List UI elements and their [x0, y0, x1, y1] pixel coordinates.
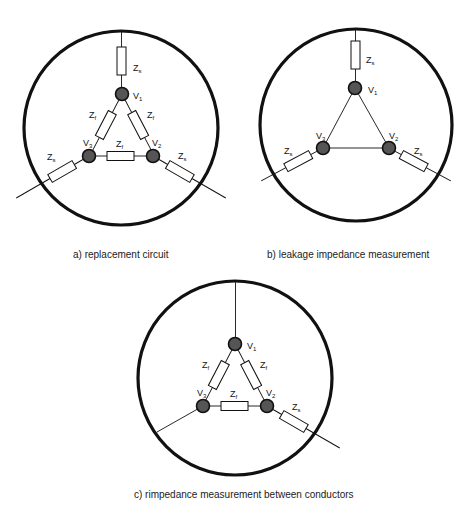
svg-text:V3: V3 [83, 138, 93, 149]
caption-c: c) rimpedance measurement between conduc… [134, 489, 354, 500]
svg-text:Zs: Zs [47, 152, 56, 163]
svg-text:Zs: Zs [414, 146, 423, 157]
svg-text:Zf: Zf [89, 110, 97, 121]
svg-text:V1: V1 [368, 85, 378, 96]
node-v3 [83, 150, 96, 163]
caption-a: a) replacement circuit [73, 249, 169, 260]
node-v2 [261, 400, 274, 413]
svg-text:Zf: Zf [116, 139, 124, 150]
panel-a-replacement-circuit: Zs Zs Zs Zf Zf Zf V1 [14, 31, 228, 225]
svg-text:Zs: Zs [366, 55, 375, 66]
svg-text:Zf: Zf [202, 360, 210, 371]
svg-text:V3: V3 [197, 388, 207, 399]
node-v2 [383, 142, 396, 155]
resistor-zf-v3-v2 [221, 402, 248, 411]
resistor-zs-right [279, 411, 308, 433]
panel-c-impedance-between-conductors: Zs Zf Zf Zf V1 V2 V3 [138, 281, 342, 475]
node-v1 [229, 338, 242, 351]
resistor-zs-left [48, 161, 77, 183]
svg-text:Zs: Zs [284, 146, 293, 157]
conductor-housing-circle [138, 281, 332, 475]
resistor-zf-v1-v3 [208, 361, 229, 390]
caption-b: b) leakage impedance measurement [267, 249, 429, 260]
svg-text:V2: V2 [152, 138, 162, 149]
panel-b-leakage-impedance: Zs Zs Zs V1 V2 V3 [259, 29, 453, 221]
resistor-zf-v1-v2 [241, 361, 262, 390]
svg-text:V3: V3 [316, 131, 326, 142]
resistor-zs-top [351, 41, 360, 69]
svg-text:Zs: Zs [178, 151, 187, 162]
svg-text:Zs: Zs [292, 402, 301, 413]
svg-text:V2: V2 [389, 131, 399, 142]
svg-text:Zf: Zf [260, 360, 268, 371]
svg-text:V1: V1 [247, 341, 257, 352]
svg-text:Zf: Zf [147, 110, 155, 121]
resistor-zf-v3-v2 [107, 152, 134, 161]
node-v1 [349, 82, 362, 95]
resistor-zf-v1-v2 [128, 111, 149, 140]
node-v2 [147, 150, 160, 163]
svg-text:Zs: Zs [133, 63, 142, 74]
resistor-zs-right [165, 161, 194, 183]
resistor-zf-v1-v3 [95, 111, 116, 140]
svg-text:V1: V1 [133, 91, 143, 102]
node-v1 [116, 88, 129, 101]
node-v3 [317, 142, 330, 155]
resistor-zs-top [117, 47, 126, 75]
svg-text:V2: V2 [266, 388, 276, 399]
svg-text:Zf: Zf [230, 389, 238, 400]
node-v3 [197, 400, 210, 413]
